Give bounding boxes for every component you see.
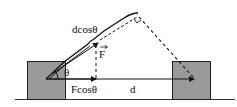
work-diagram: θ F Fcosθ d dcosθ <box>0 0 237 107</box>
dcos-dashed-line <box>100 17 137 40</box>
perpendicular-dashed-line <box>139 17 193 77</box>
angle-label: θ <box>64 66 69 78</box>
right-block <box>173 62 211 100</box>
force-label: F <box>99 48 105 60</box>
displacement-label: d <box>130 83 136 95</box>
displacement-component-label: dcosθ <box>72 23 97 35</box>
force-component-label: Fcosθ <box>71 83 97 95</box>
left-block <box>28 62 66 100</box>
right-angle-marker <box>134 19 141 23</box>
force-vector <box>52 43 98 74</box>
